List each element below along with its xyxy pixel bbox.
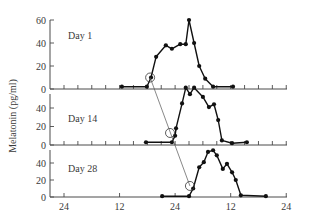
panel-label: Day 28 <box>68 163 97 174</box>
data-point <box>149 75 153 79</box>
data-point <box>144 140 148 144</box>
data-point <box>202 160 206 164</box>
data-point <box>245 140 249 144</box>
data-point <box>192 86 196 90</box>
data-point <box>225 162 229 166</box>
data-point <box>201 95 205 99</box>
y-tick-label: 40 <box>36 38 46 49</box>
x-tick-label: 12 <box>226 201 236 212</box>
data-point <box>215 153 219 157</box>
y-tick-label: 40 <box>36 103 46 114</box>
panel-day-14: 02040Day 14 <box>36 86 287 151</box>
y-tick-label: 0 <box>41 84 46 95</box>
y-tick-label: 20 <box>36 175 46 186</box>
data-point <box>197 64 201 68</box>
y-axis-label: Melatonin (pg/ml) <box>7 79 19 153</box>
data-point <box>187 18 191 22</box>
data-point <box>212 102 216 106</box>
panel-day-1: 0204060Day 1 <box>36 15 287 95</box>
data-point <box>230 141 234 145</box>
data-point <box>145 85 149 89</box>
data-point <box>197 165 201 169</box>
data-point <box>216 118 220 122</box>
data-point <box>178 42 182 46</box>
data-point <box>154 55 158 59</box>
data-point <box>230 170 234 174</box>
data-point <box>239 193 243 197</box>
panel-label: Day 14 <box>68 113 97 124</box>
onset-marker <box>166 128 175 137</box>
x-tick-label: 24 <box>170 201 180 212</box>
data-point <box>234 178 238 182</box>
melatonin-chart: Melatonin (pg/ml) 0204060Day 102040Day 1… <box>0 0 309 222</box>
y-tick-label: 0 <box>41 192 46 203</box>
panel-label: Day 1 <box>68 30 92 41</box>
x-tick-label: 24 <box>281 201 291 212</box>
y-tick-label: 20 <box>36 121 46 132</box>
data-point <box>187 194 191 198</box>
data-point <box>206 150 210 154</box>
y-tick-label: 0 <box>41 140 46 151</box>
data-point <box>264 194 268 198</box>
data-point <box>207 105 211 109</box>
data-point <box>221 167 225 171</box>
data-point <box>160 194 164 198</box>
panel-day-28: 02040Day 28 <box>36 148 287 202</box>
x-tick-labels: 2412241224 <box>59 201 291 212</box>
data-point <box>180 101 184 105</box>
y-tick-label: 40 <box>36 158 46 169</box>
data-point <box>231 85 235 89</box>
data-point <box>170 47 174 51</box>
x-tick-label: 24 <box>59 201 69 212</box>
data-point <box>184 42 188 46</box>
data-point <box>120 85 124 89</box>
y-tick-label: 20 <box>36 61 46 72</box>
series-line <box>162 150 266 196</box>
x-tick-label: 12 <box>115 201 125 212</box>
data-point <box>203 77 207 81</box>
series-line <box>122 20 233 87</box>
data-point <box>192 41 196 45</box>
data-point <box>164 43 168 47</box>
data-point <box>184 86 188 90</box>
y-tick-label: 60 <box>36 15 46 26</box>
data-point <box>188 92 192 96</box>
data-point <box>174 126 178 130</box>
data-point <box>220 138 224 142</box>
series-line <box>146 88 247 144</box>
chart-svg: Melatonin (pg/ml) 0204060Day 102040Day 1… <box>0 0 309 222</box>
data-point <box>211 85 215 89</box>
data-point <box>211 148 215 152</box>
